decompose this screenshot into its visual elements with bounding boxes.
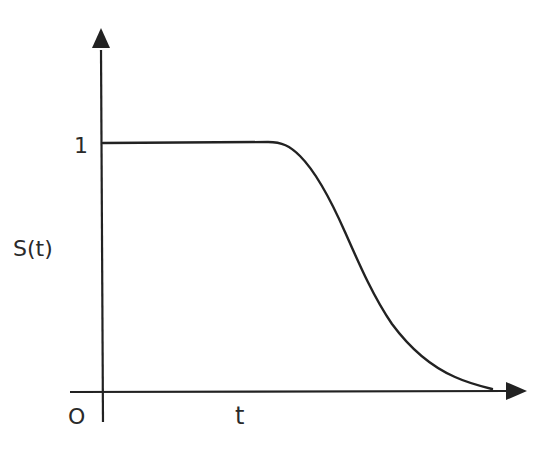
x-axis <box>70 391 508 392</box>
chart-canvas <box>0 0 559 449</box>
x-axis-arrow-icon <box>506 382 527 400</box>
y-axis-arrow-icon <box>92 28 110 48</box>
x-axis-label: t <box>235 404 244 428</box>
survival-curve <box>103 142 492 389</box>
y-axis-label: S(t) <box>13 238 53 260</box>
origin-label: O <box>68 406 85 428</box>
y-tick-label-1: 1 <box>74 135 88 157</box>
y-axis <box>101 50 103 422</box>
